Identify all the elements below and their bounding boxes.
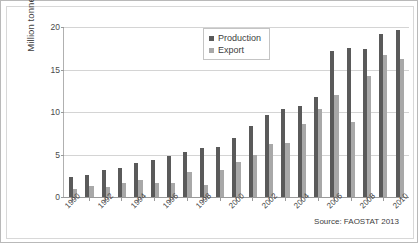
- bar-export: [89, 186, 93, 197]
- x-axis-tickmark: [187, 197, 188, 201]
- chart-legend: Production Export: [203, 28, 270, 60]
- bar-export: [334, 95, 338, 197]
- x-axis-label-slot: [113, 202, 129, 232]
- bar-export: [122, 183, 126, 197]
- bar-group: [147, 27, 163, 197]
- bar-export: [367, 76, 371, 197]
- x-axis-tickmark: [89, 197, 90, 201]
- x-axis-tickmark: [285, 197, 286, 201]
- bar-group: [114, 27, 130, 197]
- bar-export: [318, 109, 322, 197]
- x-axis-label-slot: [211, 202, 227, 232]
- x-axis-tickmark: [121, 197, 122, 201]
- x-axis-tickmark: [154, 197, 155, 201]
- x-axis-label-slot: [80, 202, 96, 232]
- y-axis-tick-label: 20: [51, 22, 60, 32]
- bar-export: [400, 59, 404, 197]
- chart-frame: Million tonnes 05101520 1990199219941996…: [0, 0, 418, 243]
- bar-group: [326, 27, 342, 197]
- bar-export: [351, 122, 355, 197]
- legend-label-production: Production: [218, 33, 261, 43]
- y-axis-tick-label: 0: [55, 192, 60, 202]
- x-axis-label-slot: 2002: [261, 202, 277, 232]
- bar-group: [65, 27, 81, 197]
- bar-group: [163, 27, 179, 197]
- bar-group: [343, 27, 359, 197]
- bar-group: [179, 27, 195, 197]
- legend-swatch-icon-export: [209, 48, 214, 53]
- x-axis-tickmark: [351, 197, 352, 201]
- x-axis-tickmark: [383, 197, 384, 201]
- y-axis-tick-label: 5: [55, 150, 60, 160]
- bar-group: [98, 27, 114, 197]
- legend-item-production: Production: [209, 32, 261, 44]
- bar-group: [81, 27, 97, 197]
- bar-group: [375, 27, 391, 197]
- x-axis-tickmark: [318, 197, 319, 201]
- bar-export: [383, 55, 387, 197]
- bar-group: [392, 27, 408, 197]
- x-axis-label-slot: 2000: [228, 202, 244, 232]
- bar-group: [294, 27, 310, 197]
- legend-label-export: Export: [218, 45, 244, 55]
- x-axis-label-slot: [179, 202, 195, 232]
- bar-export: [269, 144, 273, 197]
- bar-group: [310, 27, 326, 197]
- bar-export: [155, 183, 159, 197]
- y-axis-title: Million tonnes: [25, 0, 39, 67]
- bar-group: [277, 27, 293, 197]
- bar-export: [253, 155, 257, 197]
- x-axis-label-slot: [277, 202, 293, 232]
- source-note: Source: FAOSTAT 2013: [314, 217, 399, 226]
- x-axis-label-slot: [244, 202, 260, 232]
- x-axis-label-slot: 1992: [97, 202, 113, 232]
- x-axis-tickmark: [252, 197, 253, 201]
- x-axis-label-slot: 2004: [293, 202, 309, 232]
- x-axis-label-slot: [146, 202, 162, 232]
- chart-canvas: Million tonnes 05101520 1990199219941996…: [6, 6, 414, 239]
- y-axis-tick-label: 10: [51, 107, 60, 117]
- bar-export: [187, 172, 191, 197]
- bar-export: [220, 170, 224, 197]
- legend-swatch-icon-production: [209, 36, 214, 41]
- legend-item-export: Export: [209, 44, 261, 56]
- x-axis-label-slot: 1996: [162, 202, 178, 232]
- bar-group: [359, 27, 375, 197]
- x-axis-label-slot: 1994: [130, 202, 146, 232]
- y-axis-tick-label: 15: [51, 65, 60, 75]
- x-axis-label-slot: 1998: [195, 202, 211, 232]
- bar-export: [285, 143, 289, 197]
- bar-group: [130, 27, 146, 197]
- x-axis-tickmark: [220, 197, 221, 201]
- x-axis-label-slot: 1990: [64, 202, 80, 232]
- bar-export: [302, 124, 306, 197]
